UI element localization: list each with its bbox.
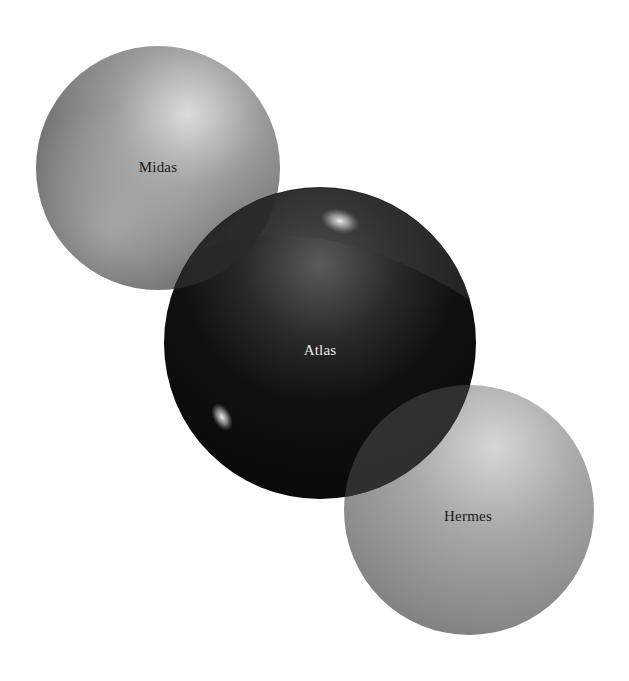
label-hermes: Hermes [444, 508, 492, 525]
sphere-diagram: Midas Atlas Hermes [0, 0, 629, 681]
label-midas: Midas [139, 159, 178, 176]
label-atlas: Atlas [304, 342, 337, 359]
diagram-canvas [0, 0, 629, 681]
